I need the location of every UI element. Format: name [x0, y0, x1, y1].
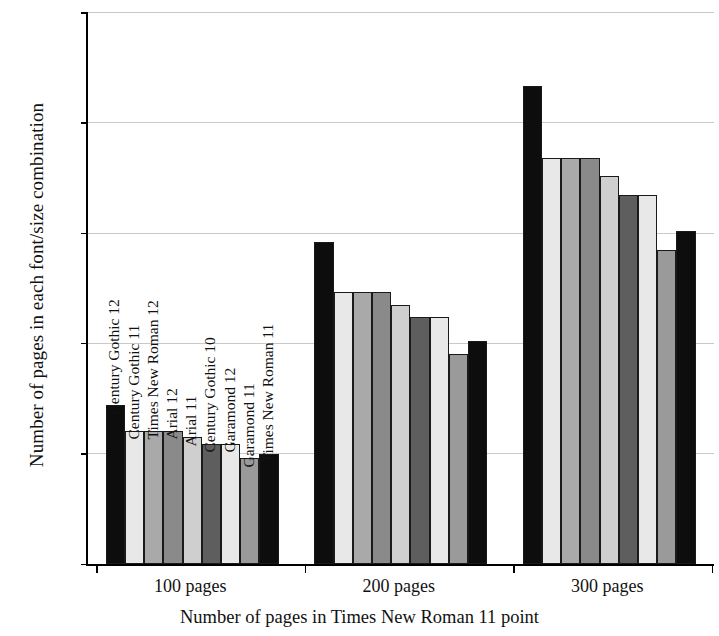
bar	[353, 292, 372, 564]
series-label: Times New Roman 11	[259, 324, 275, 463]
y-axis-tick-mark	[81, 12, 88, 14]
bar	[240, 458, 259, 564]
series-label: Century Gothic 11	[125, 325, 141, 440]
bar	[391, 305, 410, 564]
bar	[561, 158, 580, 564]
x-axis-tick-mark	[96, 564, 98, 573]
x-axis-tick-mark	[305, 564, 307, 573]
bar	[144, 431, 163, 564]
series-label: Arial 12	[163, 388, 179, 439]
bar	[638, 195, 657, 565]
bar	[449, 354, 468, 564]
bar	[676, 231, 695, 564]
bar	[619, 195, 638, 565]
bar	[183, 437, 202, 564]
bar	[163, 431, 182, 564]
y-axis-tick-mark	[81, 122, 88, 124]
y-axis-tick-mark	[81, 343, 88, 345]
bar	[523, 86, 542, 564]
gridline	[88, 122, 714, 123]
bar	[657, 250, 676, 564]
x-axis-category-label: 200 pages	[329, 576, 469, 597]
bar	[372, 292, 391, 564]
bar	[430, 317, 449, 564]
y-axis-tick-mark	[81, 233, 88, 235]
series-label: Arial 11	[183, 395, 199, 446]
y-axis-tick-mark	[81, 453, 88, 455]
x-axis-category-label: 300 pages	[537, 576, 677, 597]
bar	[314, 242, 333, 564]
x-axis-title: Number of pages in Times New Roman 11 po…	[0, 607, 719, 628]
bar	[125, 431, 144, 564]
plot-area: Century Gothic 12Century Gothic 11Times …	[86, 12, 714, 566]
y-axis-tick-mark	[81, 564, 88, 566]
bar	[221, 444, 240, 564]
bar	[580, 158, 599, 564]
bar	[410, 317, 429, 564]
bar	[334, 292, 353, 564]
bar	[542, 158, 561, 564]
x-axis-tick-mark	[712, 564, 714, 573]
bar	[468, 341, 487, 564]
series-label: Garamond 11	[240, 383, 256, 467]
series-label: Century Gothic 12	[106, 299, 122, 414]
gridline	[88, 12, 714, 13]
plot-inner: Century Gothic 12Century Gothic 11Times …	[88, 12, 714, 564]
series-label: Times New Roman 12	[144, 300, 160, 439]
x-axis-tick-mark	[513, 564, 515, 573]
series-label: Garamond 12	[221, 368, 237, 453]
x-axis-category-label: 100 pages	[120, 576, 260, 597]
y-axis-title: Number of pages in each font/size combin…	[26, 60, 48, 510]
bar-chart: Number of pages in each font/size combin…	[0, 0, 719, 636]
bar	[259, 454, 278, 564]
bar	[202, 444, 221, 564]
bar	[600, 176, 619, 564]
series-label: Century Gothic 10	[202, 337, 218, 452]
bar	[106, 405, 125, 564]
